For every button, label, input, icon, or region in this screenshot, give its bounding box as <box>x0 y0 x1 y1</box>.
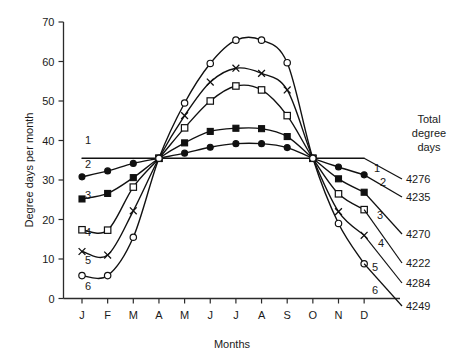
curve-label-left-1: 1 <box>85 134 91 146</box>
x-tick-label: O <box>309 309 318 321</box>
marker-open-circle <box>335 220 341 226</box>
total-degree-days-2: 4235 <box>406 191 430 203</box>
marker-open-circle <box>130 234 136 240</box>
marker-filled-square <box>284 134 290 140</box>
marker-filled-square <box>207 128 213 134</box>
total-degree-days-5: 4284 <box>406 277 430 289</box>
marker-open-circle <box>79 272 85 278</box>
marker-filled-circle <box>130 160 136 166</box>
series-curves <box>82 37 364 278</box>
curve-label-right-6: 6 <box>372 284 378 296</box>
marker-filled-circle <box>105 168 111 174</box>
marker-open-square <box>233 83 239 89</box>
x-tick-label: S <box>284 309 291 321</box>
marker-filled-square <box>233 125 239 131</box>
marker-filled-circle <box>361 172 367 178</box>
x-tick-label: M <box>180 309 189 321</box>
leader-line-4 <box>364 210 402 263</box>
marker-cross <box>130 207 137 214</box>
curve-label-left-4: 4 <box>85 226 91 238</box>
x-tick-label: M <box>129 309 138 321</box>
marker-open-circle <box>181 100 187 106</box>
marker-filled-circle <box>259 141 265 147</box>
marker-open-square <box>104 227 110 233</box>
x-tick-label: J <box>208 309 214 321</box>
marker-open-square <box>258 87 264 93</box>
totals-header-line-3: days <box>417 141 441 153</box>
marker-open-circle <box>207 60 213 66</box>
total-degree-days-6: 4249 <box>406 300 430 312</box>
marker-filled-square <box>105 190 111 196</box>
total-degree-days-4: 4222 <box>406 257 430 269</box>
y-tick-label: 0 <box>48 293 54 305</box>
series-line-5 <box>82 68 364 258</box>
totals-header-line-2: degree <box>412 127 446 139</box>
y-tick-label: 20 <box>42 214 54 226</box>
x-tick-label: J <box>79 309 85 321</box>
marker-cross <box>181 112 188 119</box>
curve-label-left-6: 6 <box>85 280 91 292</box>
totals-header-line-1: Total <box>417 113 440 125</box>
series-line-3 <box>82 128 364 199</box>
degree-days-chart: Degree days per month Months 01020304050… <box>0 0 458 359</box>
total-degree-days-3: 4270 <box>406 228 430 240</box>
y-tick-label: 60 <box>42 56 54 68</box>
marker-filled-circle <box>207 144 213 150</box>
x-tick-label: J <box>233 309 239 321</box>
y-tick-label: 10 <box>42 253 54 265</box>
curve-label-right-4: 4 <box>378 237 384 249</box>
marker-cross <box>284 87 291 94</box>
x-axis-ticks: JFMAMJJASOND <box>79 299 368 321</box>
marker-cross <box>258 70 265 77</box>
marker-filled-circle <box>182 150 188 156</box>
x-tick-label: N <box>335 309 343 321</box>
marker-cross <box>207 79 214 86</box>
x-tick-label: A <box>155 309 163 321</box>
x-tick-label: A <box>258 309 266 321</box>
marker-cross <box>104 252 111 259</box>
y-tick-label: 40 <box>42 135 54 147</box>
curve-label-left-3: 3 <box>85 189 91 201</box>
marker-open-circle <box>284 59 290 65</box>
marker-filled-circle <box>233 141 239 147</box>
total-degree-days-1: 4276 <box>406 173 430 185</box>
series-line-4 <box>82 85 364 233</box>
marker-filled-circle <box>79 174 85 180</box>
marker-filled-circle <box>336 164 342 170</box>
marker-filled-square <box>259 126 265 132</box>
marker-open-square <box>130 184 136 190</box>
marker-filled-square <box>130 175 136 181</box>
y-axis-ticks: 010203040506070 <box>42 16 63 305</box>
totals-values: 427642354270422242844249 <box>406 173 430 312</box>
x-axis-title: Months <box>214 338 251 350</box>
marker-open-square <box>207 98 213 104</box>
marker-open-circle <box>104 272 110 278</box>
marker-cross <box>335 208 342 215</box>
marker-open-circle <box>258 37 264 43</box>
marker-open-circle <box>310 155 316 161</box>
curve-label-right-5: 5 <box>372 261 378 273</box>
curve-label-left-2: 2 <box>85 158 91 170</box>
marker-open-circle <box>233 37 239 43</box>
curve-label-right-3: 3 <box>377 209 383 221</box>
marker-open-square <box>284 112 290 118</box>
leader-line-6 <box>364 264 402 306</box>
marker-open-circle <box>156 155 162 161</box>
marker-filled-square <box>182 140 188 146</box>
marker-filled-circle <box>284 145 290 151</box>
y-axis-title: Degree days per month <box>23 113 35 228</box>
x-tick-label: F <box>104 309 111 321</box>
y-tick-label: 70 <box>42 16 54 28</box>
y-tick-label: 30 <box>42 174 54 186</box>
chart-canvas: Degree days per month Months 01020304050… <box>0 0 458 359</box>
leader-line-3 <box>364 192 402 234</box>
curve-label-left-5: 5 <box>85 254 91 266</box>
y-tick-label: 50 <box>42 95 54 107</box>
marker-open-square <box>335 191 341 197</box>
marker-filled-square <box>336 176 342 182</box>
x-tick-label: D <box>360 309 368 321</box>
marker-open-square <box>181 125 187 131</box>
